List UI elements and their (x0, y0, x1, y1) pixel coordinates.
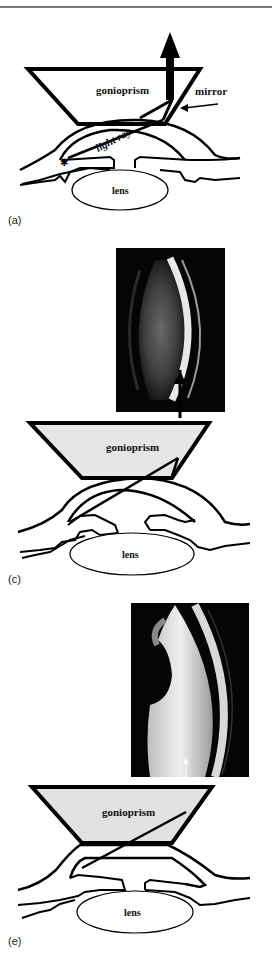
panel-c-diagram: gonioprism lens (0, 240, 272, 600)
lens-label: lens (122, 549, 139, 560)
gonioscopy-photo-c (116, 248, 225, 412)
gonioprism-label: gonioprism (96, 84, 149, 96)
svg-text:✱: ✱ (60, 157, 68, 168)
arrow-up-icon (160, 32, 180, 58)
gonioprism-label: gonioprism (106, 441, 159, 453)
lens-label: lens (112, 185, 129, 196)
panel-a: ✱ gonioprism mirror light ray lens (a) (0, 0, 272, 240)
panel-e-diagram: gonioprism lens (0, 600, 272, 975)
gonioprism-shape (28, 69, 200, 124)
panel-e-caption: (e) (8, 935, 21, 947)
gonioprism-label: gonioprism (102, 806, 155, 818)
lens-label: lens (124, 907, 141, 918)
panel-a-caption: (a) (8, 214, 21, 226)
gonioscopy-photo-e (131, 603, 249, 777)
mirror-arrow-icon (180, 104, 188, 112)
panel-a-diagram: ✱ gonioprism mirror light ray lens (0, 0, 272, 240)
mirror-label: mirror (195, 85, 227, 97)
panel-c-caption: (c) (8, 573, 21, 585)
panel-c: gonioprism lens (c) (0, 240, 272, 600)
panel-e: gonioprism lens (e) (0, 600, 272, 975)
